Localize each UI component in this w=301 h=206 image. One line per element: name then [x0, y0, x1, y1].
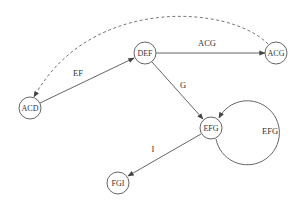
node-acd: ACD [19, 97, 41, 119]
state-diagram: EF ACG G EFG I ACD DEF [0, 0, 301, 206]
edge-efg-self-loop: EFG [216, 101, 279, 165]
edge-label-acg: ACG [198, 38, 216, 48]
edge-label-efg-loop: EFG [262, 126, 278, 136]
edge-label-ef: EF [73, 68, 83, 78]
node-acg: ACG [265, 42, 287, 64]
edge-acd-to-def: EF [40, 58, 134, 103]
node-label-efg: EFG [203, 124, 218, 133]
edge-label-g: G [180, 80, 186, 90]
edge-label-i: I [152, 144, 155, 154]
node-def: DEF [134, 42, 156, 64]
edge-def-to-efg: G [152, 62, 203, 119]
node-efg: EFG [200, 117, 222, 139]
node-label-acd: ACD [22, 104, 39, 113]
node-label-def: DEF [137, 49, 153, 58]
node-fgi: FGI [107, 172, 129, 194]
edge-efg-to-fgi: I [128, 134, 201, 176]
node-label-acg: ACG [268, 49, 285, 58]
node-label-fgi: FGI [112, 179, 125, 188]
edge-def-to-acg: ACG [156, 38, 265, 53]
